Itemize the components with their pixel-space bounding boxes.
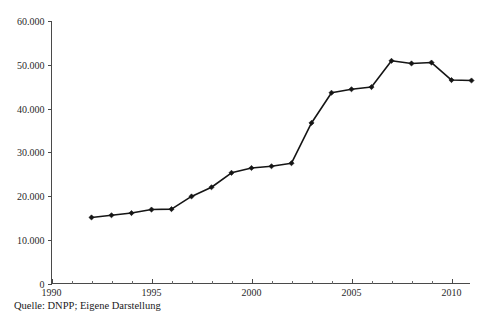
data-point-1994 bbox=[129, 210, 134, 215]
x-axis-tick-labels: 19901995200020052010 bbox=[42, 287, 462, 298]
data-point-1992 bbox=[89, 215, 94, 220]
data-point-2001 bbox=[269, 164, 274, 169]
data-point-2005 bbox=[349, 87, 354, 92]
x-tick-label-1990: 1990 bbox=[42, 287, 62, 298]
data-line-series-1 bbox=[92, 61, 472, 218]
y-tick-label-60000: 60.000 bbox=[17, 16, 45, 27]
line-chart-plot: 010.00020.00030.00040.00050.00060.000 19… bbox=[0, 0, 482, 319]
data-point-1995 bbox=[149, 207, 154, 212]
chart-figure: 010.00020.00030.00040.00050.00060.000 19… bbox=[0, 0, 482, 319]
y-tick-label-20000: 20.000 bbox=[17, 191, 45, 202]
series-group bbox=[89, 58, 474, 220]
source-caption: Quelle: DNPP; Eigene Darstellung bbox=[14, 300, 161, 312]
y-axis-ticks bbox=[48, 22, 52, 285]
data-point-2011 bbox=[469, 78, 474, 83]
x-tick-label-2010: 2010 bbox=[442, 287, 462, 298]
y-tick-label-30000: 30.000 bbox=[17, 147, 45, 158]
x-tick-label-2000: 2000 bbox=[242, 287, 262, 298]
data-point-1993 bbox=[109, 213, 114, 218]
y-tick-label-50000: 50.000 bbox=[17, 60, 45, 71]
y-tick-label-10000: 10.000 bbox=[17, 235, 45, 246]
x-axis-group: 19901995200020052010 bbox=[42, 279, 471, 298]
x-tick-label-2005: 2005 bbox=[342, 287, 362, 298]
x-tick-label-1995: 1995 bbox=[142, 287, 162, 298]
y-tick-label-40000: 40.000 bbox=[17, 104, 45, 115]
data-markers-series-1 bbox=[89, 58, 474, 220]
y-axis-tick-labels: 010.00020.00030.00040.00050.00060.000 bbox=[17, 16, 45, 290]
data-point-2000 bbox=[249, 165, 254, 170]
y-axis-group: 010.00020.00030.00040.00050.00060.000 bbox=[17, 16, 52, 290]
data-point-2008 bbox=[409, 61, 414, 66]
data-point-2002 bbox=[289, 161, 294, 166]
